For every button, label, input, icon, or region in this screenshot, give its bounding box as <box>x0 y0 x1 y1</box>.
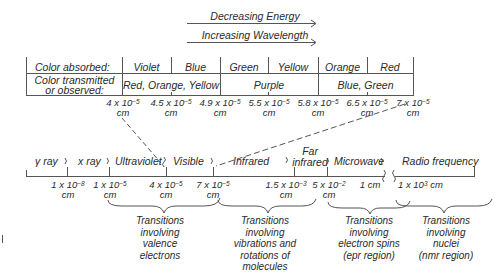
region-x-ray: x ray <box>78 156 101 167</box>
region-gamma-ray: γ ray <box>35 156 58 167</box>
cell-red-orange-yellow: Red, Orange, Yellow <box>122 80 220 91</box>
cell-green: Green <box>220 62 268 73</box>
transition-electron-spins: Transitions involving electron spins (ep… <box>326 215 412 261</box>
color-absorbed-header: Color absorbed: <box>35 62 110 73</box>
boundary-label: 1 cm <box>355 180 385 190</box>
transition-valence-electrons: Transitions involving valence electrons <box>120 215 200 261</box>
region-far-infrared-line2: infrared <box>290 157 330 168</box>
cell-yellow: Yellow <box>268 62 318 73</box>
color-observed-header-line2: or observed: <box>27 85 122 96</box>
cell-orange: Orange <box>318 62 367 73</box>
wavelength-label: 6.5 x 10−5cm <box>339 98 395 118</box>
transition-vibrations-rotations: Transitions involving vibrations and rot… <box>224 215 306 273</box>
wavelength-label: 5.5 x 10−5cm <box>241 98 297 118</box>
region-ultraviolet: Ultraviolet <box>115 156 162 167</box>
region-radio-frequency: Radio frequency <box>402 156 478 167</box>
boundary-label: 1 x 10−5cm <box>85 180 135 200</box>
boundary-label: 4 x 10−5cm <box>141 180 191 200</box>
cell-blue: Blue <box>171 62 220 73</box>
cell-purple: Purple <box>220 80 318 91</box>
region-visible: Visible <box>173 156 204 167</box>
decreasing-energy-label: Decreasing Energy <box>200 11 310 22</box>
wavelength-label: 4 x 10−5cm <box>98 98 148 118</box>
region-infrared: Infrared <box>233 156 269 167</box>
cell-blue-green: Blue, Green <box>318 80 413 91</box>
wavelength-label: 4.9 x 10−5cm <box>192 98 248 118</box>
wavelength-label: 7 x 10−5cm <box>388 98 438 118</box>
boundary-label: 1 x 103 cm <box>398 180 458 190</box>
region-microwave: Microwave <box>334 156 384 167</box>
transition-nuclei: Transitions involving nuclei (nmr region… <box>405 215 487 261</box>
boundary-label: 5 x 10−2cm <box>304 180 354 200</box>
wavelength-label: 5.8 x 10−5cm <box>290 98 346 118</box>
boundary-label: 7 x 10−5cm <box>188 180 238 200</box>
cell-red: Red <box>367 62 413 73</box>
wavelength-label: 4.5 x 10−5cm <box>143 98 199 118</box>
cell-violet: Violet <box>122 62 171 73</box>
increasing-wavelength-label: Increasing Wavelength <box>195 30 315 41</box>
